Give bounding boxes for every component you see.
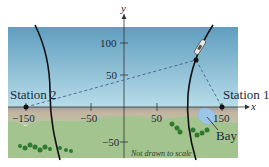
y-tick-neg-50: −50 — [102, 137, 119, 148]
x-tick-50: 50 — [151, 113, 162, 124]
station-2-point — [24, 105, 29, 110]
y-axis-arrow — [122, 14, 127, 19]
y-tick-50: 50 — [106, 70, 117, 81]
y-tick-100: 100 — [100, 38, 117, 49]
x-tick-neg-50: −50 — [80, 113, 97, 124]
loran-diagram: y x 100 50 −50 −150 −50 50 150 Station 2… — [0, 0, 269, 167]
x-tick-neg-150: −150 — [12, 113, 35, 124]
x-tick-150: 150 — [213, 113, 230, 124]
station-2-label: Station 2 — [10, 88, 57, 101]
station-1-point — [220, 105, 225, 110]
y-axis-label: y — [121, 3, 126, 14]
bay-label: Bay — [216, 129, 237, 142]
not-to-scale-note: Not drawn to scale — [131, 150, 192, 158]
x-axis-arrow — [245, 105, 250, 110]
ship-point — [194, 58, 199, 63]
station-1-label: Station 1 — [223, 88, 269, 101]
x-axis-label: x — [251, 101, 256, 112]
